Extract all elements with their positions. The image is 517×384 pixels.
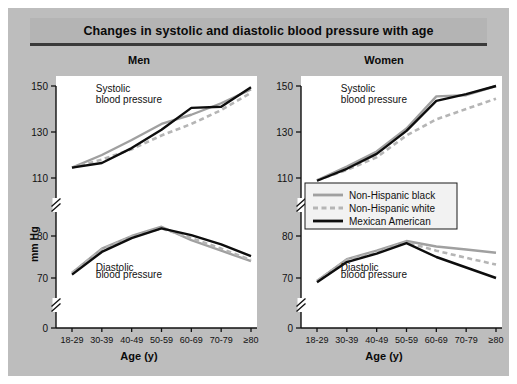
- x-tick-label: 60-69: [180, 335, 203, 345]
- x-tick-label: 30-39: [90, 335, 113, 345]
- x-tick-label: 60-69: [425, 335, 448, 345]
- x-tick-label: ≥80: [244, 335, 259, 345]
- annotation-systolic: Systolic: [341, 83, 375, 94]
- annotation-systolic: blood pressure: [341, 94, 408, 105]
- x-tick-label: 30-39: [335, 335, 358, 345]
- x-tick-label: 40-49: [120, 335, 143, 345]
- y-tick-label: 150: [276, 81, 293, 92]
- page-title: Changes in systolic and diastolic blood …: [83, 24, 433, 38]
- y-tick-label: 80: [282, 231, 294, 242]
- x-tick-label: 40-49: [365, 335, 388, 345]
- x-tick-label: 70-79: [210, 335, 233, 345]
- panel-women: Women 1101301507080018-2930-3940-4950-59…: [259, 52, 509, 376]
- y-tick-label: 130: [31, 127, 48, 138]
- y-tick-label-zero: 0: [42, 323, 48, 334]
- x-axis-label-women: Age (y): [259, 350, 509, 362]
- chart-plot-women: 1101301507080018-2930-3940-4950-5960-697…: [259, 52, 509, 376]
- x-tick-label: 50-59: [395, 335, 418, 345]
- legend-label: Mexican American: [349, 216, 431, 227]
- y-tick-label: 110: [277, 173, 293, 184]
- chart-plot-men: 1101301507080018-2930-3940-4950-5960-697…: [14, 52, 264, 376]
- x-tick-label: 18-29: [60, 335, 83, 345]
- y-tick-label: 70: [282, 273, 294, 284]
- legend-label: Non-Hispanic black: [349, 190, 436, 201]
- x-tick-label: 70-79: [455, 335, 478, 345]
- annotation-systolic: blood pressure: [96, 94, 163, 105]
- plot-background: [56, 76, 257, 328]
- annotation-diastolic: blood pressure: [341, 269, 408, 280]
- y-tick-label: 110: [32, 173, 48, 184]
- x-tick-label: ≥80: [489, 335, 504, 345]
- y-tick-label: 130: [276, 127, 293, 138]
- y-tick-label: 70: [37, 273, 49, 284]
- x-tick-label: 50-59: [150, 335, 173, 345]
- y-tick-label-zero: 0: [287, 323, 293, 334]
- x-axis-label-men: Age (y): [14, 350, 264, 362]
- panels-container: Men 1101301507080018-2930-3940-4950-5960…: [8, 52, 509, 376]
- y-tick-label: 150: [31, 81, 48, 92]
- y-axis-label-men: mm Hg: [28, 226, 40, 262]
- legend-label: Non-Hispanic white: [349, 203, 436, 214]
- figure-frame: Changes in systolic and diastolic blood …: [8, 8, 509, 376]
- figure-title-bar: Changes in systolic and diastolic blood …: [30, 18, 487, 46]
- x-tick-label: 18-29: [305, 335, 328, 345]
- annotation-systolic: Systolic: [96, 83, 130, 94]
- panel-men: Men 1101301507080018-2930-3940-4950-5960…: [14, 52, 264, 376]
- annotation-diastolic: blood pressure: [96, 269, 163, 280]
